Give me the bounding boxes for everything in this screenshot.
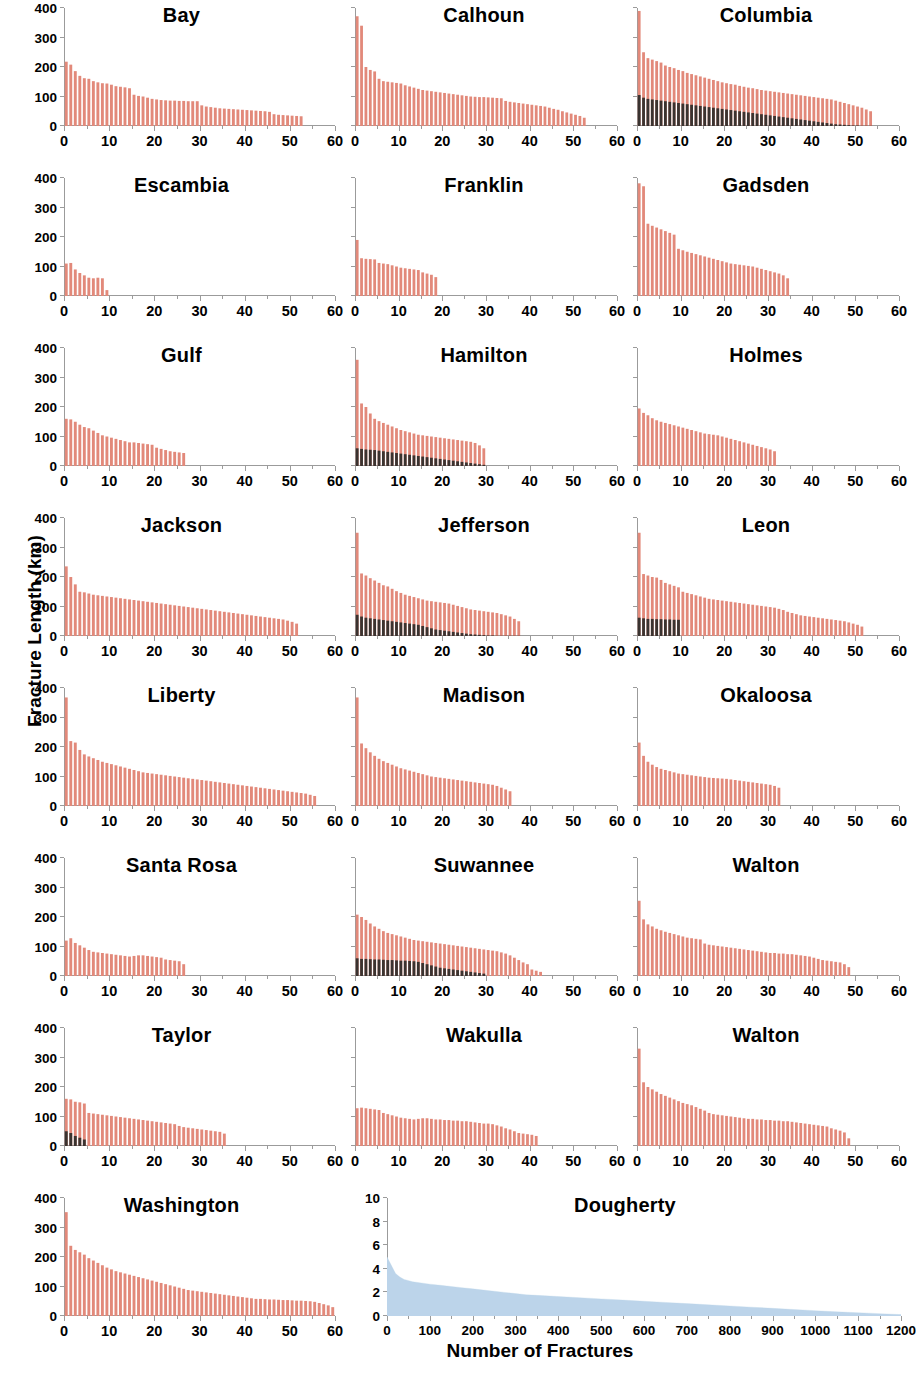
x-tick-label: 0	[351, 1153, 359, 1169]
x-tick-label: 50	[847, 983, 863, 999]
x-tick-label: 30	[760, 473, 776, 489]
x-tick	[724, 126, 725, 131]
y-tick-label: 200	[34, 570, 57, 585]
x-tick	[154, 1146, 155, 1151]
data-series	[64, 348, 335, 466]
x-tick	[245, 126, 246, 131]
x-tick	[877, 296, 878, 299]
x-tick	[267, 976, 268, 979]
x-tick-label: 20	[716, 643, 732, 659]
y-tick-label: 0	[49, 799, 57, 814]
x-tick-label: 40	[522, 303, 538, 319]
x-tick	[200, 296, 201, 301]
x-tick	[681, 126, 682, 131]
x-tick	[267, 636, 268, 639]
x-tick	[617, 296, 618, 301]
x-tick	[790, 1146, 791, 1149]
x-tick	[790, 126, 791, 129]
x-tick-label: 20	[434, 1153, 450, 1169]
x-tick	[442, 126, 443, 131]
x-tick	[812, 1146, 813, 1151]
x-tick-label: 0	[60, 813, 68, 829]
x-tick	[877, 1146, 878, 1149]
x-tick	[442, 806, 443, 811]
y-tick-label: 0	[372, 1309, 380, 1324]
x-tick	[834, 636, 835, 639]
plot-area: 0102030405060	[637, 178, 899, 296]
x-tick	[877, 976, 878, 979]
x-tick-label: 50	[847, 1153, 863, 1169]
x-tick	[768, 296, 769, 301]
x-tick	[377, 636, 378, 639]
data-series	[64, 858, 335, 976]
x-tick	[877, 466, 878, 469]
x-tick	[245, 806, 246, 811]
x-tick	[899, 126, 900, 131]
x-tick	[335, 466, 336, 471]
x-tick-label: 60	[891, 643, 907, 659]
x-tick-label: 30	[760, 1153, 776, 1169]
x-tick	[267, 466, 268, 469]
x-tick-label: 60	[609, 643, 625, 659]
y-tick-label: 100	[34, 939, 57, 954]
x-tick	[834, 126, 835, 129]
x-tick-label: 60	[609, 133, 625, 149]
x-tick-label: 10	[101, 473, 117, 489]
x-tick	[399, 636, 400, 641]
x-tick	[595, 806, 596, 809]
chart-panel-wakulla: Wakulla0102030405060	[343, 1020, 625, 1190]
x-tick	[154, 636, 155, 641]
x-tick	[109, 296, 110, 301]
x-tick	[746, 806, 747, 809]
x-tick	[617, 126, 618, 131]
chart-panel-escambia: Escambia01002003004000102030405060	[20, 170, 343, 340]
x-tick	[877, 636, 878, 639]
x-tick	[442, 466, 443, 471]
x-tick-label: 50	[282, 1153, 298, 1169]
data-series	[637, 178, 899, 296]
x-tick-label: 10	[673, 983, 689, 999]
x-tick-label: 50	[565, 303, 581, 319]
x-tick	[573, 806, 574, 811]
x-tick	[508, 466, 509, 469]
x-tick-label: 40	[804, 1153, 820, 1169]
x-tick	[355, 976, 356, 981]
plot-area: 01002003004000102030405060	[64, 8, 335, 126]
data-series	[64, 518, 335, 636]
y-tick-label: 300	[34, 880, 57, 895]
x-tick-label: 0	[351, 813, 359, 829]
y-tick-label: 0	[49, 629, 57, 644]
x-tick-label: 20	[434, 133, 450, 149]
x-tick-label: 40	[522, 813, 538, 829]
x-tick	[837, 1316, 838, 1319]
x-tick	[899, 296, 900, 301]
x-tick	[335, 1316, 336, 1321]
plot-area: 0102030405060	[355, 688, 617, 806]
y-tick-label: 400	[34, 1021, 57, 1036]
y-tick-label: 0	[49, 459, 57, 474]
x-tick-label: 30	[478, 303, 494, 319]
x-tick	[335, 976, 336, 981]
x-tick	[399, 806, 400, 811]
data-series	[355, 348, 617, 466]
y-tick-label: 400	[34, 1, 57, 16]
x-tick-label: 30	[191, 1153, 207, 1169]
x-tick	[377, 296, 378, 299]
x-tick-label: 0	[351, 303, 359, 319]
x-tick	[245, 1146, 246, 1151]
x-tick	[708, 1316, 709, 1319]
x-tick	[486, 466, 487, 471]
x-tick	[617, 976, 618, 981]
x-tick-label: 30	[191, 643, 207, 659]
x-tick	[377, 126, 378, 129]
x-tick	[177, 466, 178, 469]
x-tick	[681, 296, 682, 301]
x-tick	[794, 1316, 795, 1319]
x-tick	[703, 806, 704, 809]
x-tick-label: 10	[101, 1153, 117, 1169]
chart-panel-holmes: Holmes0102030405060	[625, 340, 907, 510]
x-tick-label: 60	[609, 473, 625, 489]
plot-area: 0102030405060	[355, 518, 617, 636]
x-tick	[109, 976, 110, 981]
